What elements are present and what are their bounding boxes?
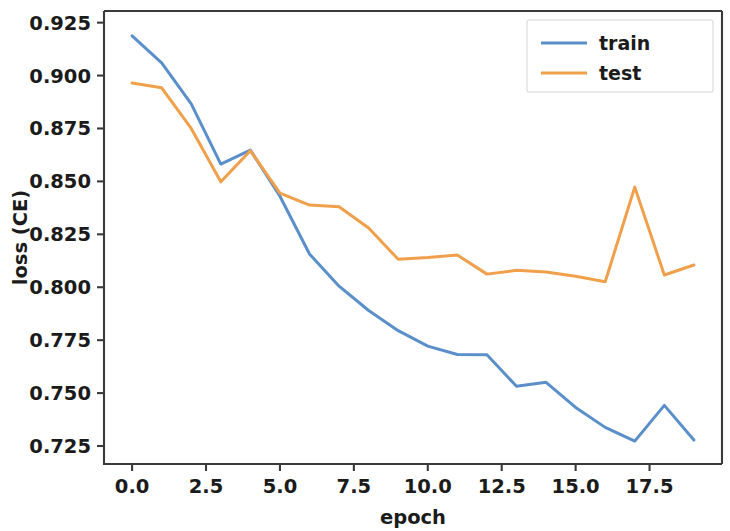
x-tick-label: 15.0 bbox=[552, 475, 600, 498]
y-tick-label: 0.825 bbox=[29, 223, 91, 246]
y-tick-label: 0.750 bbox=[29, 382, 91, 405]
x-tick-label: 5.0 bbox=[263, 475, 298, 498]
x-tick-label: 0.0 bbox=[115, 475, 150, 498]
legend-label-train: train bbox=[599, 32, 650, 54]
y-tick-label: 0.725 bbox=[29, 435, 91, 458]
x-tick-label: 10.0 bbox=[404, 475, 452, 498]
y-tick-label: 0.875 bbox=[29, 117, 91, 140]
x-tick-label: 2.5 bbox=[189, 475, 224, 498]
y-tick-label: 0.800 bbox=[29, 276, 91, 299]
y-axis-title: loss (CE) bbox=[9, 190, 32, 286]
y-tick-label: 0.775 bbox=[29, 329, 91, 352]
chart-legend[interactable]: traintest bbox=[527, 20, 713, 92]
x-axis-title: epoch bbox=[380, 506, 446, 529]
legend-label-test: test bbox=[599, 62, 641, 84]
y-tick-label: 0.850 bbox=[29, 170, 91, 193]
x-tick-label: 12.5 bbox=[478, 475, 526, 498]
matplotlib-figure: 0.7250.7500.7750.8000.8250.8500.8750.900… bbox=[0, 0, 730, 531]
loss-curve-chart: 0.7250.7500.7750.8000.8250.8500.8750.900… bbox=[0, 0, 730, 531]
x-tick-label: 7.5 bbox=[337, 475, 372, 498]
x-tick-label: 17.5 bbox=[625, 475, 673, 498]
y-tick-label: 0.925 bbox=[29, 12, 91, 35]
y-tick-label: 0.900 bbox=[29, 65, 91, 88]
